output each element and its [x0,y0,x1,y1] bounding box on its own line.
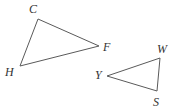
vertex-label-S: S [153,95,159,109]
vertex-label-H: H [4,65,15,79]
vertex-label-W: W [157,42,168,56]
vertex-label-Y: Y [95,68,103,82]
geometry-figure: C F H W Y S [0,0,179,112]
vertex-label-C: C [29,2,38,16]
figure-canvas: C F H W Y S [0,0,179,112]
triangle-CFH-outline [20,19,99,66]
triangle-WYS-outline [107,58,160,91]
vertex-label-F: F [102,40,111,54]
